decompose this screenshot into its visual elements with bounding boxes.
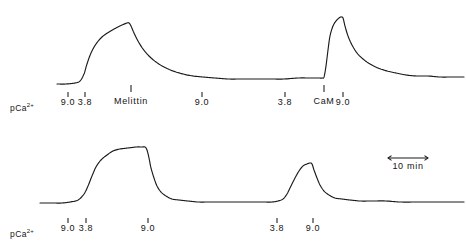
pca-tick-value: 3.8 [78, 97, 92, 107]
scale-bar-arrow [388, 156, 428, 161]
pca-tick-value: 9.0 [306, 223, 320, 233]
pca-tick-value: 3.8 [270, 223, 284, 233]
bottom-trace-line [40, 147, 464, 203]
pca-tick-value: 9.0 [195, 97, 209, 107]
pca-label-text-bottom: pCa [10, 229, 27, 239]
pca-label-text-top: pCa [10, 103, 27, 113]
pca-label-superscript-bottom: 2+ [27, 228, 34, 234]
pca-label-superscript-top: 2+ [27, 102, 34, 108]
figure-canvas: pCa2+ pCa2+ 9.03.89.03.89.09.03.89.03.89… [0, 0, 466, 247]
event-label-cam: CaM [313, 96, 334, 106]
top-trace-line [57, 17, 464, 84]
pca-tick-value: 9.0 [61, 97, 75, 107]
event-label-melittin: Melittin [114, 96, 148, 106]
pca-tick-value: 3.8 [278, 97, 292, 107]
scale-bar-label: 10 min [392, 161, 423, 171]
traces-svg [0, 0, 466, 247]
pca-tick-value: 9.0 [141, 223, 155, 233]
pca-tick-value: 9.0 [61, 223, 75, 233]
pca-tick-value: 3.8 [79, 223, 93, 233]
pca-tick-value: 9.0 [336, 97, 350, 107]
pca-axis-label-top: pCa2+ [10, 102, 34, 113]
pca-axis-label-bottom: pCa2+ [10, 228, 34, 239]
event-arrow-marks [131, 85, 324, 92]
